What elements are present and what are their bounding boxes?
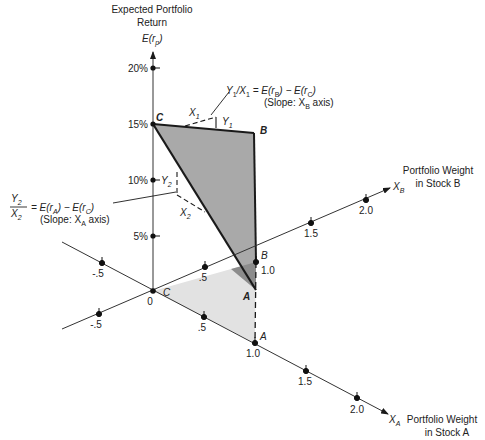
xa-tick-05: .5	[198, 322, 207, 333]
xa-axis	[62, 242, 388, 414]
tick-10: 10%	[128, 175, 148, 186]
title-line1: Expected Portfolio	[111, 4, 193, 15]
xa-tick-10: 1.0	[246, 348, 260, 359]
xb-tick-10: 1.0	[261, 265, 275, 276]
point-c-floor: C	[163, 287, 171, 298]
svg-text:X2: X2	[10, 208, 22, 221]
tick-20: 20%	[128, 63, 148, 74]
vertical-axis-label: E(rp)	[142, 33, 163, 47]
xa-caption-line1: Portfolio Weight	[407, 414, 478, 425]
vertical-ticks	[150, 65, 160, 293]
xa-caption-line2: in Stock A	[425, 427, 470, 438]
point-a-floor: A	[259, 331, 267, 342]
xb-tick-15: 1.5	[304, 228, 318, 239]
xa-tick-20: 2.0	[350, 404, 364, 415]
point-c-top: C	[156, 112, 164, 123]
point-b-floor: B	[261, 250, 268, 261]
xb-tick-neg05: -.5	[90, 319, 102, 330]
xb-caption-line2: in Stock B	[415, 178, 460, 189]
xb-axis-symbol: XB	[392, 181, 405, 194]
point-a-top: A	[242, 291, 250, 302]
annotation-1-note: (Slope: XB axis)	[264, 97, 334, 110]
point-b-top: B	[260, 125, 267, 136]
xa-tick-neg05: -.5	[92, 268, 104, 279]
tick-15: 15%	[128, 119, 148, 130]
x2-label: X2	[179, 207, 191, 220]
y1-label: Y1	[222, 116, 233, 129]
portfolio-plane-diagram: Expected Portfolio Return E(rp) 20% 15% …	[0, 0, 485, 440]
xa-tick-15: 1.5	[298, 376, 312, 387]
x1-label: X1	[188, 107, 200, 120]
xb-tick-05: .5	[199, 272, 208, 283]
xa-axis-symbol: XA	[388, 414, 401, 427]
svg-text:(Slope: XA axis): (Slope: XA axis)	[40, 214, 110, 227]
origin-label: 0	[147, 296, 153, 307]
xb-tick-20: 2.0	[359, 205, 373, 216]
svg-text:Y2: Y2	[11, 193, 22, 206]
xb-caption-line1: Portfolio Weight	[403, 165, 474, 176]
annotation-2-formula: Y2 X2 = E(rA) − E(rC) (Slope: XA axis)	[10, 193, 110, 227]
title-line2: Return	[137, 17, 167, 28]
tick-5: 5%	[134, 231, 149, 242]
y2-label: Y2	[161, 175, 172, 188]
